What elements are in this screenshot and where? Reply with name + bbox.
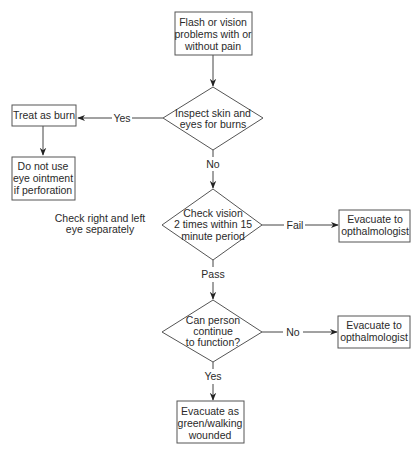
node-check-vision-decision: Check vision 2 times within 15 minute pe…	[162, 189, 262, 260]
annotation-line-2: eye separately	[66, 223, 135, 235]
node-no-ointment-line-3: if perforation	[14, 184, 73, 196]
node-evacuate-opth-1: Evacuate to opthalmologist	[339, 210, 410, 242]
edge-label-vision-pass: Pass	[201, 268, 224, 280]
node-treat-burn: Treat as burn	[12, 105, 76, 126]
flowchart-canvas: Yes No Fail Pass No Yes Flash or vision …	[0, 0, 416, 450]
node-no-ointment: Do not use eye ointment if perforation	[12, 157, 75, 200]
node-evacuate-opth-1-line-1: Evacuate to	[347, 213, 403, 225]
node-inspect-decision: Inspect skin and eyes for burns	[163, 87, 263, 150]
edge-label-inspect-yes: Yes	[113, 112, 130, 124]
node-inspect-line-2: eyes for burns	[180, 118, 247, 130]
edge-label-vision-fail: Fail	[287, 219, 304, 231]
node-can-function-line-3: to function?	[186, 336, 240, 348]
node-can-function-decision: Can person continue to function?	[162, 300, 262, 362]
edge-label-function-yes: Yes	[204, 370, 221, 382]
edge-label-function-no: No	[286, 326, 300, 338]
edge-label-inspect-no: No	[206, 158, 220, 170]
annotation-check-eyes: Check right and left eye separately	[55, 212, 146, 235]
node-evacuate-opth-2-line-1: Evacuate to	[346, 319, 402, 331]
node-evacuate-green: Evacuate as green/walking wounded	[177, 401, 244, 443]
node-evacuate-green-line-3: wounded	[188, 429, 232, 441]
node-evacuate-opth-2: Evacuate to opthalmologist	[338, 316, 410, 348]
node-start-line-1: Flash or vision	[179, 16, 247, 28]
node-evacuate-opth-1-line-2: opthalmologist	[341, 225, 409, 237]
node-start-line-2: problems with or	[174, 28, 252, 40]
node-evacuate-opth-2-line-2: opthalmologist	[340, 331, 408, 343]
node-start-line-3: without pain	[184, 40, 241, 52]
node-no-ointment-line-2: eye ointment	[13, 172, 73, 184]
node-evacuate-green-line-2: green/walking	[178, 417, 243, 429]
node-evacuate-green-line-1: Evacuate as	[181, 405, 239, 417]
node-check-vision-line-3: minute period	[181, 230, 245, 242]
node-treat-burn-line-1: Treat as burn	[13, 109, 75, 121]
node-no-ointment-line-1: Do not use	[18, 160, 69, 172]
node-check-vision-line-2: 2 times within 15	[174, 218, 252, 230]
node-start: Flash or vision problems with or without…	[174, 12, 252, 55]
